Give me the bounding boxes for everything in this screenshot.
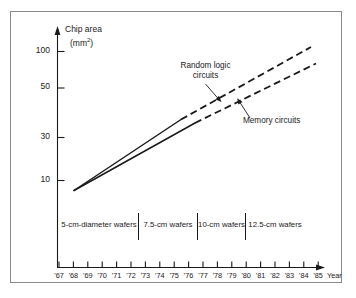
annotation-random-logic-line1: Random logic: [169, 62, 242, 71]
y-tick-label-50: 50: [28, 82, 50, 91]
annotation-memory-circuits: Memory circuits: [243, 117, 300, 126]
x-tick-label-85: '85: [310, 272, 326, 280]
y-tick-label-10: 10: [28, 175, 50, 184]
y-axis: [55, 26, 61, 268]
y-axis-ticks: [58, 52, 65, 181]
y-tick-label-100: 100: [28, 46, 50, 55]
y-axis-units-open: (mm: [70, 38, 87, 48]
series-memory-circuits: [74, 64, 316, 191]
leader-line-random-logic: [206, 84, 222, 102]
chart-plot-area: [0, 0, 356, 298]
wafer-band-label-5cm: 5-cm-diameter wafers: [60, 221, 138, 229]
x-axis-title: Year: [327, 272, 342, 280]
x-axis-ticks: [59, 262, 318, 268]
wafer-band-label-10cm: 10-cm wafers: [198, 221, 245, 229]
y-axis-units-close: ): [90, 38, 93, 48]
y-axis-units: (mm2): [70, 39, 93, 48]
wafer-band-label-12-5cm: 12.5-cm wafers: [246, 221, 304, 229]
x-axis: [58, 265, 326, 271]
annotation-random-logic-line2: circuits: [169, 72, 242, 81]
chart-figure: 100 50 30 10 Chip area (mm2) Random logi…: [0, 0, 356, 298]
wafer-band-label-7-5cm: 7.5-cm wafers: [139, 221, 197, 229]
y-axis-title: Chip area: [65, 25, 102, 34]
y-tick-label-30: 30: [28, 132, 50, 141]
